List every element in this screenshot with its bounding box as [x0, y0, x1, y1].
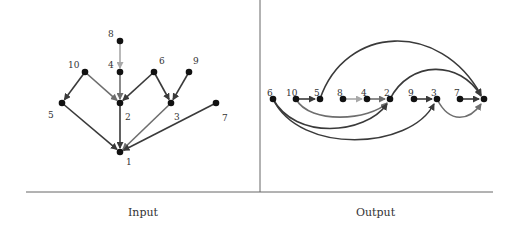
node-label-9: 9	[193, 56, 199, 66]
edge-6-3	[154, 72, 169, 99]
node-label-2: 2	[125, 112, 131, 122]
output-graph-edges	[273, 41, 481, 140]
output-node-1	[481, 96, 488, 103]
edge-10-5	[64, 72, 85, 100]
output-node-label-8: 8	[337, 88, 343, 98]
caption-input: Input	[128, 206, 158, 219]
node-6	[151, 69, 158, 76]
output-node-label-7: 7	[454, 88, 460, 98]
output-node-label-2: 2	[384, 88, 390, 98]
node-label-8: 8	[108, 29, 114, 39]
edge-3-1	[123, 103, 171, 149]
output-node-label-4: 4	[361, 88, 367, 98]
node-label-3: 3	[174, 112, 180, 122]
node-label-10: 10	[68, 60, 80, 70]
output-graph-nodes: 6105842937	[267, 88, 487, 102]
output-node-label-3: 3	[431, 88, 437, 98]
node-5	[59, 100, 66, 107]
edge-7-1	[124, 103, 216, 150]
output-node-label-6: 6	[267, 88, 273, 98]
node-8	[117, 38, 124, 45]
node-4	[117, 69, 124, 76]
node-label-1: 1	[126, 157, 132, 167]
edge-6-2	[273, 99, 387, 129]
edge-9-3	[173, 72, 189, 100]
node-label-5: 5	[48, 110, 54, 120]
edge-5-1	[62, 103, 117, 149]
output-node-label-9: 9	[408, 88, 414, 98]
node-label-7: 7	[222, 113, 228, 123]
caption-output: Output	[356, 206, 395, 219]
edge-6-3	[273, 99, 434, 140]
edge-6-2	[123, 72, 154, 100]
input-graph-nodes: 84106952371	[48, 29, 228, 167]
node-7	[213, 100, 220, 107]
output-node-label-10: 10	[286, 88, 298, 98]
edge-10-2	[85, 72, 117, 100]
node-3	[168, 100, 175, 107]
node-2	[117, 100, 124, 107]
output-node-label-5: 5	[314, 88, 320, 98]
node-1	[117, 149, 124, 156]
node-label-4: 4	[108, 60, 114, 70]
diagram-canvas: 84106952371 6105842937	[0, 0, 515, 233]
node-9	[186, 69, 193, 76]
node-10	[82, 69, 89, 76]
node-label-6: 6	[159, 56, 165, 66]
